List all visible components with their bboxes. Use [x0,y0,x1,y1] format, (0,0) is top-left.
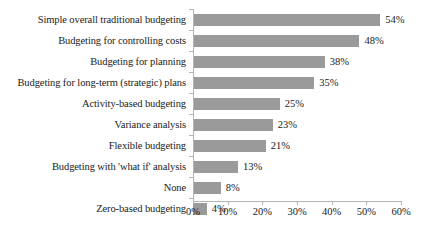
horizontal-bar-chart: Simple overall traditional budgeting 54%… [0,0,446,230]
bar [193,14,380,26]
y-tick [189,30,193,31]
x-axis-tick-labels: 0% 10% 20% 30% 40% 50% 60% [0,206,446,222]
bar-value-label: 48% [364,35,383,46]
x-tick [193,201,194,205]
category-label: Budgeting for planning [0,56,186,67]
bar-value-label: 35% [319,77,338,88]
y-tick [189,198,193,199]
bar-value-label: 25% [285,98,304,109]
bar [193,56,325,68]
chart-row: Budgeting for long-term (strategic) plan… [0,72,446,93]
y-tick [189,135,193,136]
y-tick [189,9,193,10]
category-label: Budgeting for long-term (strategic) plan… [0,77,186,88]
chart-row: Flexible budgeting 21% [0,135,446,156]
bar-value-label: 21% [271,140,290,151]
chart-row: Budgeting for controlling costs 48% [0,30,446,51]
x-tick [401,201,402,205]
y-tick [189,93,193,94]
y-tick [189,72,193,73]
bar [193,182,221,194]
bar-value-label: 54% [385,14,404,25]
x-tick [366,201,367,205]
chart-row: None 8% [0,177,446,198]
bar-value-label: 8% [226,182,240,193]
chart-rows: Simple overall traditional budgeting 54%… [0,9,446,219]
chart-row: Activity-based budgeting 25% [0,93,446,114]
chart-row: Budgeting with 'what if' analysis 13% [0,156,446,177]
bar-zone: 23% [186,114,446,135]
bar [193,140,266,152]
chart-row: Simple overall traditional budgeting 54% [0,9,446,30]
bar [193,98,280,110]
category-label: Budgeting with 'what if' analysis [0,161,186,172]
y-tick [189,51,193,52]
category-label: None [0,182,186,193]
bar-value-label: 38% [330,56,349,67]
x-tick-label: 20% [253,206,272,218]
bar-zone: 35% [186,72,446,93]
chart-row: Variance analysis 23% [0,114,446,135]
bar-zone: 8% [186,177,446,198]
category-label: Simple overall traditional budgeting [0,14,186,25]
x-tick [262,201,263,205]
x-tick [297,201,298,205]
x-tick-label: 0% [186,206,200,218]
category-label: Flexible budgeting [0,140,186,151]
category-label: Budgeting for controlling costs [0,35,186,46]
y-tick [189,156,193,157]
x-tick [332,201,333,205]
category-label: Variance analysis [0,119,186,130]
y-tick [189,177,193,178]
bar [193,161,238,173]
bar-zone: 25% [186,93,446,114]
x-tick-label: 30% [287,206,306,218]
chart-row: Budgeting for planning 38% [0,51,446,72]
bar-zone: 13% [186,156,446,177]
category-label: Activity-based budgeting [0,98,186,109]
y-axis-ticks [189,9,194,201]
bar-zone: 54% [186,9,446,30]
bar-zone: 48% [186,30,446,51]
bar-value-label: 13% [243,161,262,172]
x-tick [228,201,229,205]
y-tick [189,114,193,115]
x-tick-label: 40% [322,206,341,218]
x-tick-label: 60% [391,206,410,218]
bar [193,35,359,47]
x-tick-label: 50% [357,206,376,218]
bar-value-label: 23% [278,119,297,130]
x-tick-label: 10% [218,206,237,218]
bar-zone: 38% [186,51,446,72]
bar [193,77,314,89]
bar-zone: 21% [186,135,446,156]
bar [193,119,273,131]
